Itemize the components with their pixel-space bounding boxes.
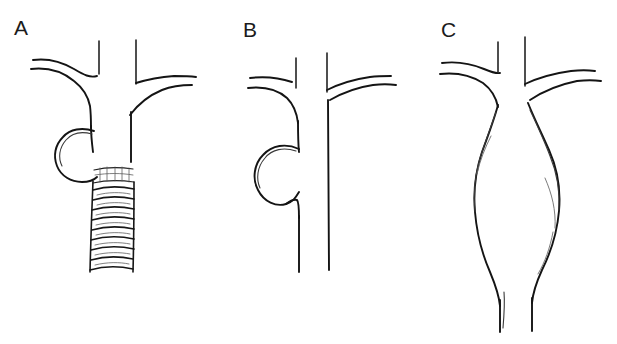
stent-fabric-texture-8 <box>95 263 129 265</box>
fusiform-aneurysm-left-wall <box>474 105 500 306</box>
fusiform-left-shading-stroke <box>477 136 491 174</box>
stent-collar-bottom-edge <box>93 181 134 183</box>
panel-b-drawing <box>210 0 420 344</box>
fusiform-right-lower-stroke <box>538 232 553 274</box>
aneurysm-distal-neck <box>286 200 299 218</box>
panel-c-drawing <box>420 0 617 344</box>
stent-fabric-texture-2 <box>97 203 130 205</box>
right-branch-upper-wall <box>525 70 595 84</box>
left-branch-lower-wall <box>31 69 91 128</box>
fusiform-right-shading-stroke <box>545 178 555 228</box>
figure-canvas: A <box>0 0 617 344</box>
stent-ring-3 <box>92 207 134 210</box>
stent-ring-7 <box>91 247 134 250</box>
left-branch-lower-wall <box>248 87 298 123</box>
stent-ring-1 <box>93 187 134 190</box>
saccular-aneurysm-sac <box>255 146 299 205</box>
fusiform-right-inner-contour <box>530 110 559 210</box>
distal-aorta-left-limb-secondary <box>503 292 504 328</box>
right-branch-upper-wall <box>136 76 196 83</box>
stent-fabric-texture-5 <box>96 233 130 235</box>
aorta-left-wall <box>298 121 299 152</box>
stent-ring-2 <box>93 197 134 200</box>
fusiform-left-inner-contour <box>474 112 496 212</box>
panel-a: A <box>0 0 210 344</box>
stent-ring-9 <box>90 267 133 270</box>
right-branch-lower-wall <box>130 85 192 115</box>
stent-ring-4 <box>92 217 134 220</box>
left-branch-upper-wall <box>442 62 500 73</box>
stent-fabric-texture-4 <box>96 223 130 225</box>
aneurysm-sac-inner-contour <box>60 133 92 166</box>
stent-fabric-texture-7 <box>95 253 130 255</box>
stent-fabric-texture-3 <box>96 213 130 215</box>
stent-graft-left-wall <box>90 181 93 272</box>
right-branch-lower-wall <box>530 80 601 100</box>
aorta-right-wall <box>328 100 329 270</box>
panel-b: B <box>210 0 420 344</box>
panel-a-drawing <box>0 0 210 344</box>
stent-fabric-texture-6 <box>95 243 130 245</box>
stent-ring-6 <box>91 237 134 240</box>
stent-collar-midline <box>95 174 133 176</box>
fusiform-aneurysm-right-wall <box>528 103 560 303</box>
stent-fabric-texture-1 <box>97 193 130 195</box>
stent-ring-8 <box>91 257 133 260</box>
left-branch-lower-wall <box>440 73 498 107</box>
panel-c: C <box>420 0 617 344</box>
right-branch-lower-wall <box>330 84 396 100</box>
left-branch-upper-wall <box>250 77 292 82</box>
stent-ring-5 <box>92 227 134 230</box>
